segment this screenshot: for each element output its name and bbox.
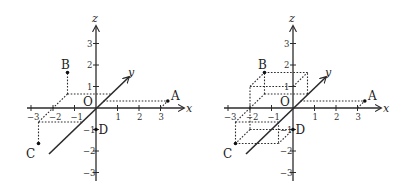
right-point-a (363, 99, 367, 103)
svg-text:−3: −3 (280, 168, 293, 178)
svg-text:3: 3 (356, 112, 361, 122)
left-y-label: y (127, 66, 135, 79)
svg-text:−2: −2 (246, 112, 259, 122)
left-figure: −3 −2 −1 1 2 3 3 2 1 −1 −2 −3 z x y O (26, 12, 193, 181)
svg-text:−1: −1 (71, 112, 84, 122)
svg-text:2: 2 (137, 112, 142, 122)
svg-text:−2: −2 (49, 112, 62, 122)
right-label-b: B (258, 58, 267, 72)
right-x-label: x (383, 102, 390, 115)
left-label-b: B (61, 58, 70, 72)
svg-text:2: 2 (87, 60, 92, 70)
svg-text:3: 3 (159, 112, 164, 122)
svg-text:−1: −1 (268, 112, 281, 122)
right-label-d: D (296, 123, 306, 137)
svg-text:3: 3 (284, 39, 289, 49)
svg-text:−3: −3 (224, 112, 237, 122)
right-label-c: C (223, 147, 232, 161)
right-z-label: z (288, 12, 295, 25)
right-point-c (234, 142, 238, 146)
svg-text:1: 1 (87, 82, 92, 92)
svg-text:3: 3 (87, 39, 92, 49)
svg-text:2: 2 (334, 112, 339, 122)
svg-text:1: 1 (284, 82, 289, 92)
right-y-label: y (324, 66, 332, 79)
left-x-label: x (186, 102, 193, 115)
svg-text:1: 1 (313, 112, 318, 122)
left-point-d (94, 128, 98, 132)
left-label-a: A (170, 89, 180, 103)
right-origin-label: O (280, 95, 290, 109)
svg-text:−1: −1 (280, 125, 293, 135)
right-point-d (291, 128, 295, 132)
svg-text:2: 2 (284, 60, 289, 70)
left-point-c (37, 142, 41, 146)
svg-text:−1: −1 (83, 125, 96, 135)
left-label-d: D (99, 123, 109, 137)
right-label-a: A (367, 89, 377, 103)
svg-text:−2: −2 (83, 146, 96, 156)
left-z-label: z (91, 12, 98, 25)
svg-text:−3: −3 (83, 168, 96, 178)
left-point-a (166, 99, 170, 103)
right-figure: −3 −2 −1 1 2 3 3 2 1 −1 −2 −3 z x y O (223, 12, 390, 181)
svg-text:−2: −2 (280, 146, 293, 156)
diagram-canvas: −3 −2 −1 1 2 3 3 2 1 −1 −2 −3 z x y O (0, 0, 405, 191)
svg-text:−3: −3 (27, 112, 40, 122)
left-origin-label: O (83, 95, 93, 109)
left-label-c: C (26, 147, 35, 161)
svg-text:1: 1 (116, 112, 121, 122)
